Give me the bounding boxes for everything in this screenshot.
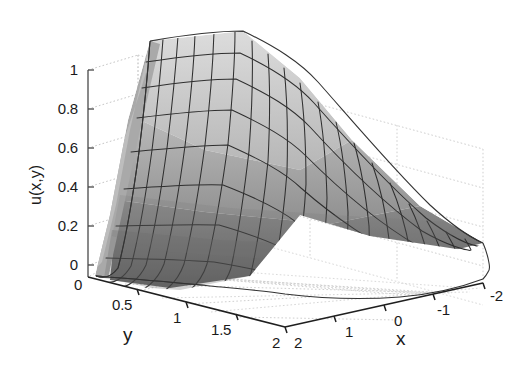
x-tick-label-1: 1: [345, 324, 353, 339]
z-tick-label-0.8: 0.8: [34, 101, 78, 116]
z-tick-label-0.2: 0.2: [34, 218, 78, 233]
z-tick-label-1: 1: [44, 62, 78, 77]
x-tick-label-minus2: -2: [490, 288, 503, 303]
y-tick-label-2: 2: [272, 335, 280, 350]
y-tick-label-1.5: 1.5: [211, 322, 231, 337]
surface-plot-svg: [0, 0, 532, 365]
y-tick-label-0: 0: [74, 277, 82, 292]
z-axis-title: u(x,y): [28, 165, 44, 205]
z-axis-line: [88, 70, 94, 277]
x-tick-label-minus1: -1: [437, 302, 450, 317]
z-tick-label-0.6: 0.6: [34, 140, 78, 155]
surface-mesh: [88, 31, 489, 306]
x-axis-title: x: [396, 329, 406, 348]
y-tick-label-1: 1: [173, 310, 181, 325]
x-tick-label-2: 2: [294, 335, 302, 350]
y-tick-label-0.5: 0.5: [112, 297, 132, 312]
figure-canvas: 1 0.8 0.6 0.4 0.2 0 u(x,y) 0 0.5 1 1.5 2…: [0, 0, 532, 365]
y-axis-title: y: [123, 325, 133, 344]
x-tick-label-0: 0: [394, 313, 402, 328]
z-tick-label-0: 0: [44, 257, 78, 272]
